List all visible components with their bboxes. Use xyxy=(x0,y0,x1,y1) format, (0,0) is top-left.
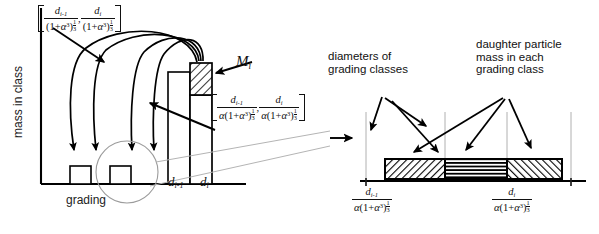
figure-canvas: mass in class grading di-1 (1+α3)13 , di… xyxy=(0,0,599,234)
arrow-daughter-3 xyxy=(509,99,531,148)
formula-mid-interval: di-1 α(1+α3)13 , di α(1+α3)13 xyxy=(211,94,305,123)
annotation-daughter-line-3: grading class xyxy=(476,63,562,76)
arrow-daughter-2 xyxy=(466,99,505,150)
detail-segment-0 xyxy=(385,159,445,179)
bracket-close-icon xyxy=(115,5,121,32)
arrow-daughter-1 xyxy=(414,98,503,152)
label-parent-mass-mi: Mi xyxy=(236,53,251,71)
formula-top-term-1: di-1 (1+α3)13 xyxy=(44,5,78,32)
left-chart-bars xyxy=(70,63,212,184)
detail-segment-2 xyxy=(507,159,562,179)
bracket-close-icon xyxy=(299,94,305,121)
annotation-diameters: diameters of grading classes xyxy=(328,50,408,75)
y-axis-title: mass in class xyxy=(11,56,25,148)
formula-top-interval: di-1 (1+α3)13 , di (1+α3)13 xyxy=(38,5,121,34)
detail-segment-1 xyxy=(445,159,507,179)
parent-mass-mi-block xyxy=(190,63,212,95)
formula-top-term-2: di (1+α3)13 xyxy=(81,5,115,32)
arrow-diameters-2 xyxy=(385,98,426,126)
annotation-daughter-line-2: mass in each xyxy=(476,51,562,64)
annotation-diameters-line-2: grading classes xyxy=(328,63,408,76)
detail-axis-label-right: di α(1+α3)13 xyxy=(492,186,532,213)
x-tick-label-d-i-minus-1: di-1 xyxy=(168,174,183,190)
annotation-daughter-line-1: daughter particle xyxy=(476,38,562,51)
annotation-diameters-line-1: diameters of xyxy=(328,50,408,63)
detail-highlight xyxy=(96,131,352,203)
bar-class-i-minus-1 xyxy=(168,72,190,184)
formula-mid-term-2: di α(1+α3)13 xyxy=(259,94,299,121)
arrow-diameters-1 xyxy=(371,97,382,130)
bar-class-b xyxy=(110,166,131,184)
detail-axis-label-left: di-1 α(1+α3)13 xyxy=(352,186,392,213)
right-detail-panel xyxy=(360,97,586,186)
x-axis-title: grading xyxy=(66,193,106,207)
arrow-diameters-3 xyxy=(392,101,438,152)
annotation-daughter-mass: daughter particle mass in each grading c… xyxy=(476,38,562,76)
bar-class-a xyxy=(70,166,91,184)
x-tick-label-d-i: di xyxy=(200,174,209,190)
formula-mid-term-1: di-1 α(1+α3)13 xyxy=(217,94,257,121)
